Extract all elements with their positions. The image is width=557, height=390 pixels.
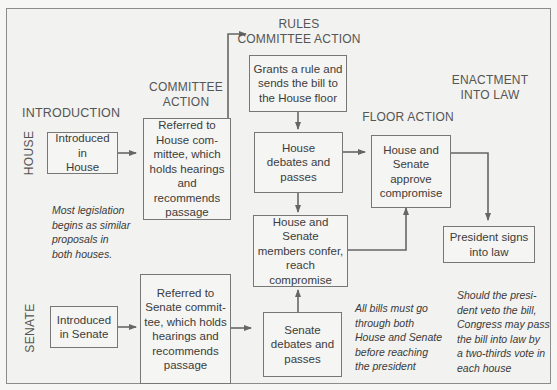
node-approve-compromise: House and Senate approve compromise bbox=[371, 135, 451, 208]
side-label-house: HOUSE bbox=[22, 128, 36, 178]
heading-committee-action: COMMITTEE ACTION bbox=[140, 80, 232, 110]
node-senate-committee: Referred to Senate commit- tee, which ho… bbox=[140, 274, 231, 384]
arrow-approve-to-president bbox=[451, 153, 488, 220]
note-both-houses: All bills must go through both House and… bbox=[355, 301, 455, 374]
side-label-senate: SENATE bbox=[23, 299, 37, 357]
node-introduced-in-house: Introduced in House bbox=[47, 132, 118, 174]
arrow-conference-to-approve bbox=[348, 208, 406, 250]
node-rules-committee: Grants a rule and sends the bill to the … bbox=[249, 55, 347, 112]
note-similar-proposals: Most legislation begins as similar propo… bbox=[52, 203, 142, 261]
node-president-signs: President signs into law bbox=[443, 226, 535, 263]
heading-floor-action: FLOOR ACTION bbox=[353, 110, 463, 125]
node-introduced-in-senate: Introduced in Senate bbox=[50, 306, 118, 348]
heading-introduction: INTRODUCTION bbox=[22, 106, 122, 121]
node-house-committee: Referred to House com- mittee, which hol… bbox=[143, 118, 231, 220]
node-senate-floor: Senate debates and passes bbox=[263, 312, 342, 377]
heading-rules-committee-action: RULES COMMITTEE ACTION bbox=[232, 17, 366, 47]
note-veto-override: Should the presi- dent veto the bill, Co… bbox=[457, 288, 553, 375]
node-house-floor: House debates and passes bbox=[254, 132, 343, 193]
node-conference-committee: House and Senate members confer, reach c… bbox=[253, 215, 348, 287]
heading-enactment-into-law: ENACTMENT INTO LAW bbox=[440, 73, 540, 103]
